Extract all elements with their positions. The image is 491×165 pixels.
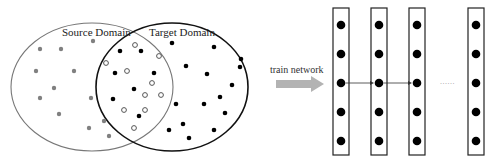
network-layer-1 [333,8,349,155]
overlap-source-point [159,93,164,98]
neuron-node [472,50,481,59]
neuron-node [337,108,346,117]
domain-adaptation-diagram: Source Domain Target Domain train networ… [0,0,491,165]
source-point [91,39,95,43]
source-point [87,126,91,130]
neuron-node [375,79,384,88]
source-domain-label: Source Domain [62,26,131,38]
overlap-target-point [132,87,137,92]
overlap-target-point [111,97,116,102]
target-point [205,72,210,77]
source-points-group [34,39,111,138]
overlap-target-point [152,71,157,76]
target-point [167,128,172,133]
neuron-node [472,137,481,146]
overlap-source-point [150,81,155,86]
overlap-target-point [113,71,118,76]
target-point [212,45,217,50]
source-point [38,47,42,51]
source-point [72,69,76,73]
target-domain-label: Target Domain [149,26,215,38]
overlap-source-point [132,126,137,131]
overlap-source-point [157,54,162,59]
overlap-target-point [137,114,142,119]
target-point [230,83,235,88]
neuron-node [375,50,384,59]
source-point [102,119,106,123]
overlap-points-group [104,43,164,131]
neural-network [333,8,484,155]
network-layer-n [468,8,484,155]
network-layer-3 [409,8,425,155]
neuron-node [413,50,422,59]
overlap-target-point [118,49,123,54]
neuron-node [472,21,481,30]
neuron-node [375,108,384,117]
target-point [170,41,175,46]
train-arrow-head [311,76,324,92]
target-point [181,122,186,127]
neuron-node [413,137,422,146]
network-layer-2 [371,8,387,155]
target-point [174,102,179,107]
target-point [238,65,243,70]
neuron-node [413,21,422,30]
neuron-node [413,108,422,117]
layers-ellipsis: ...... [440,77,455,86]
overlap-source-point [125,69,130,74]
train-arrow-shaft [276,80,312,88]
source-point [107,134,111,138]
target-point [187,136,192,141]
neuron-node [413,79,422,88]
source-point [52,86,56,90]
neuron-node [375,21,384,30]
train-arrow [276,76,324,92]
neuron-node [375,137,384,146]
train-network-label: train network [270,64,324,75]
overlap-source-point [133,43,138,48]
source-point [89,96,93,100]
neuron-node [337,79,346,88]
source-point [57,112,61,116]
overlap-source-point [143,108,148,113]
neuron-node [337,21,346,30]
overlap-source-point [122,108,127,113]
target-point [184,64,189,69]
source-point [34,69,38,73]
target-point [239,57,244,62]
target-point [202,102,207,107]
source-point [38,96,42,100]
source-point [59,47,63,51]
neuron-node [472,79,481,88]
overlap-target-point [139,49,144,54]
target-point [218,95,223,100]
overlap-source-point [143,93,148,98]
target-points-group [167,41,244,141]
overlap-source-point [104,61,109,66]
neuron-node [337,50,346,59]
target-point [223,111,228,116]
neuron-node [337,137,346,146]
neuron-node [472,108,481,117]
target-point [212,128,217,133]
